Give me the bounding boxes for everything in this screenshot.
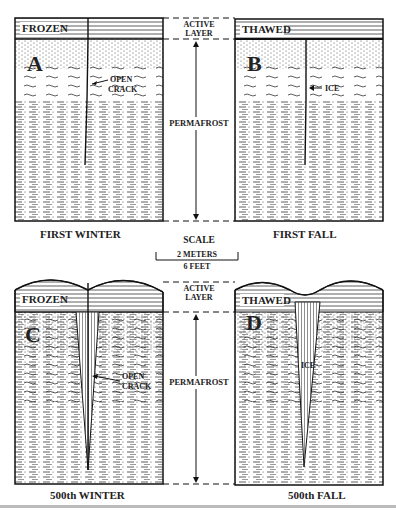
active-layer-label-2: LAYER [185,293,212,302]
panel-b-caption: FIRST FALL [273,228,336,240]
panel-a-crack-label-2: CRACK [108,85,138,94]
bottom-divider [0,505,396,508]
panel-d-letter: D [246,310,262,335]
scale-imperial: 6 FEET [184,262,212,271]
panel-b-surface-label: THAWED [242,23,291,35]
scale-title: SCALE [183,235,215,245]
active-layer-label-1: ACTIVE [183,20,214,29]
ice-wedge-diagram: FROZEN A OPEN CRACK FIRST WINTER THAWED … [0,0,396,511]
panel-b-ice-label: ICE [325,84,339,93]
active-layer-label-1: ACTIVE [183,284,214,293]
permafrost-label: PERMAFROST [169,377,229,387]
panel-d-surface-label: THAWED [242,294,291,306]
panel-a-surface-label: FROZEN [22,22,68,34]
panel-a [15,18,163,221]
panel-c-letter: C [25,322,41,347]
active-layer-label-2: LAYER [185,29,212,38]
panel-d-caption: 500th FALL [288,489,346,501]
panel-b-letter: B [247,51,262,76]
panel-b [235,19,383,221]
panel-a-crack-label-1: OPEN [110,75,132,84]
panel-a-caption: FIRST WINTER [40,228,122,240]
panel-c-caption: 500th WINTER [50,489,126,501]
scale-metric: 2 METERS [177,250,217,259]
panel-c-crack-label-2: CRACK [122,382,152,391]
panel-c-crack-label-1: OPEN [122,372,144,381]
panel-d-ice-label: ICE [301,361,315,370]
panel-a-letter: A [27,51,43,76]
arrow-up-icon [193,314,199,320]
panel-c-surface-label: FROZEN [22,293,68,305]
permafrost-label: PERMAFROST [169,118,229,128]
arrow-down-icon [193,214,199,220]
arrow-down-icon [193,477,199,483]
arrow-up-icon [193,41,199,47]
